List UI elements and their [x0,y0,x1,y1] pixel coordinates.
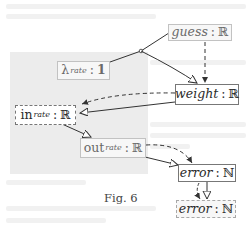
node-lambda-name: λ [61,64,69,77]
node-in-name: in [20,109,32,122]
node-lambda-type: 1 [97,64,106,77]
figure-caption: Fig. 6 [104,191,138,205]
node-lambda-sep: : [90,64,94,77]
node-lambda-sup: rate [70,67,87,75]
node-guess-name: guess [172,26,208,39]
edge-error-dashed-to-copy [197,183,200,199]
edge-weight-dashed-to-in [82,93,175,104]
edge-out-solid-to-error [145,157,178,165]
node-error-copy-sep: : [215,203,219,216]
node-out-name: out [84,142,105,155]
node-error-name: error [180,167,213,180]
node-in-sup: rate [33,111,50,119]
node-error-copy-type: ℕ [222,203,233,216]
node-in-type: ℝ [60,109,70,122]
edge-in-to-out [62,124,91,137]
node-weight[interactable]: weight : ℝ [175,84,239,105]
node-error-copy-name: error [179,203,212,216]
edge-weight-solid-to-in [80,102,175,113]
edge-lambda-to-junction [110,51,141,62]
node-out-sup: rate [105,144,122,152]
node-guess-type: ℝ [218,26,228,39]
node-guess-sep: : [211,26,215,39]
edge-out-dashed-to-error [146,145,192,163]
node-weight-type: ℝ [229,88,239,101]
node-error-copy[interactable]: error : ℕ [176,200,236,218]
node-lambda-rate[interactable]: λrate : 1 [57,61,110,80]
node-in-sep: : [53,109,57,122]
node-in-rate[interactable]: inrate : ℝ [15,105,76,125]
node-out-type: ℝ [132,142,142,155]
node-out-sep: : [125,142,129,155]
node-guess[interactable]: guess : ℝ [168,24,232,41]
node-weight-name: weight [175,88,218,101]
node-out-rate[interactable]: outrate : ℝ [80,138,146,158]
node-error[interactable]: error : ℕ [178,164,236,182]
node-error-sep: : [216,167,220,180]
node-error-type: ℕ [223,167,234,180]
edge-junction-to-weight [141,51,197,83]
node-weight-sep: : [221,88,225,101]
